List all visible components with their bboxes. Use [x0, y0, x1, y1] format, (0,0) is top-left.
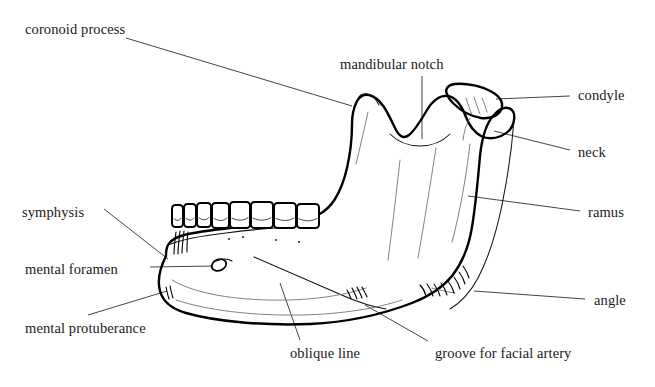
label-mental-protuberance: mental protuberance — [25, 321, 146, 336]
anatomical-diagram-page: coronoid processmandibular notchcondylen… — [0, 0, 655, 387]
bone-condyle-head — [446, 84, 502, 118]
digastric-marks-1 — [352, 288, 357, 299]
label-neck: neck — [578, 145, 606, 160]
bone-mylohyoid-faint — [172, 280, 366, 300]
label-symphysis: symphysis — [22, 205, 84, 220]
bone-ramus-shade-3 — [388, 160, 400, 260]
label-ramus: ramus — [588, 205, 624, 220]
label-angle: angle — [594, 293, 626, 308]
label-coronoid-process: coronoid process — [25, 22, 125, 37]
leader-mental-foramen — [150, 266, 214, 267]
label-groove-for-facial-artery: groove for facial artery — [435, 346, 571, 361]
tooth-3 — [197, 203, 211, 227]
tooth-4 — [212, 203, 229, 228]
label-oblique-line: oblique line — [290, 346, 360, 361]
symphysis-ridges-1 — [174, 232, 176, 254]
alveolar-dot-2 — [242, 236, 244, 238]
bone-ramus-shade-2 — [418, 148, 436, 258]
tooth-8 — [297, 204, 319, 228]
label-mandibular-notch: mandibular notch — [340, 57, 443, 72]
masseter-hatching-7 — [459, 272, 465, 284]
symphysis-ridges-4 — [187, 232, 188, 252]
bone-condyle-inner-3 — [482, 98, 487, 112]
bone-coronoid-shade — [356, 112, 368, 164]
label-mental-foramen: mental foramen — [25, 262, 118, 277]
masseter-hatching-1 — [420, 285, 426, 296]
bone-ramus-shade-1 — [452, 144, 470, 242]
bone-feature-group — [166, 231, 469, 299]
masseter-hatching-5 — [448, 281, 454, 293]
label-condyle: condyle — [578, 88, 625, 103]
tooth-7 — [274, 203, 296, 228]
masseter-hatching-8 — [463, 266, 469, 278]
leader-ramus — [468, 196, 580, 211]
bone-condyle-inner-2 — [474, 97, 480, 114]
leader-condyle — [496, 96, 570, 99]
alveolar-dot-4 — [298, 241, 300, 243]
tooth-2 — [184, 204, 196, 227]
leader-groove-for-facial-artery — [365, 305, 428, 341]
leader-angle — [474, 291, 585, 299]
leader-symphysis — [104, 209, 168, 259]
tooth-6 — [251, 202, 273, 228]
symphysis-ridges-2 — [178, 231, 180, 254]
mental-tubercle-marks-2 — [170, 286, 173, 298]
bone-oblique-line-path — [254, 257, 386, 309]
leader-coronoid-process — [126, 38, 352, 106]
alveolar-dot-3 — [275, 239, 277, 241]
mental-tubercle-marks-1 — [166, 287, 169, 299]
teeth-row — [172, 202, 319, 228]
leader-mental-protuberance — [88, 291, 167, 315]
masseter-hatching-6 — [454, 277, 460, 289]
tooth-1 — [172, 205, 183, 227]
leader-oblique-line — [280, 283, 300, 340]
digastric-marks-2 — [357, 287, 362, 298]
tooth-5 — [230, 202, 250, 228]
alveolar-dot-1 — [228, 238, 230, 240]
